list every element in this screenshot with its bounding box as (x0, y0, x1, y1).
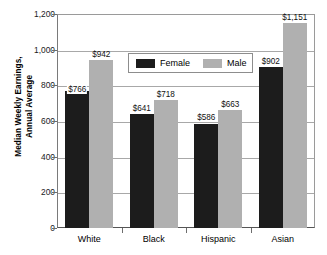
x-axis-tick-mark (186, 228, 187, 233)
legend-item-male: Male (203, 58, 247, 68)
bar-hispanic-female (194, 124, 218, 229)
y-axis-title-line-1: Median Weekly Earnings, (14, 17, 25, 197)
legend-label-male: Male (227, 58, 247, 68)
y-axis-tick-label: 600 (15, 116, 55, 126)
y-axis-tick-mark (52, 228, 57, 229)
y-axis-tick-label: 400 (15, 152, 55, 162)
legend-label-female: Female (160, 58, 190, 68)
legend-swatch-male-icon (203, 59, 222, 68)
y-axis-title-line-2: Annual Average (24, 17, 35, 197)
bar-value-label: $1,151 (282, 13, 307, 22)
y-axis-tick-label: 0 (15, 223, 55, 233)
bar-asian-female (259, 67, 283, 228)
legend: Female Male (128, 53, 253, 73)
x-axis-category-label: Hispanic (201, 234, 236, 244)
x-axis-category-label: White (78, 234, 101, 244)
x-axis-category-label: Asian (271, 234, 294, 244)
x-axis-tick-mark (122, 228, 123, 233)
y-axis-title: Median Weekly Earnings, Annual Average (14, 17, 35, 197)
bar-value-label: $718 (157, 90, 175, 99)
x-axis-tick-mark (251, 228, 252, 233)
bar-hispanic-male (218, 110, 242, 228)
bar-black-male (154, 100, 178, 228)
bar-black-female (130, 114, 154, 228)
y-axis-tick-label: 1,200 (15, 9, 55, 19)
y-axis-tick-label: 800 (15, 80, 55, 90)
y-axis-tick-label: 200 (15, 187, 55, 197)
bar-value-label: $766 (67, 85, 87, 94)
bar-value-label: $641 (133, 104, 151, 113)
bars-layer: $766$942$641$718$586$663$902$1,151 (57, 14, 315, 228)
bar-white-male (89, 60, 113, 228)
bar-value-label: $586 (197, 113, 215, 122)
bar-chart: Median Weekly Earnings, Annual Average 0… (0, 0, 327, 255)
bar-asian-male (283, 23, 307, 228)
bar-value-label: $663 (221, 100, 239, 109)
x-axis-category-label: Black (143, 234, 165, 244)
legend-item-female: Female (136, 58, 190, 68)
bar-white-female (65, 91, 89, 228)
legend-swatch-female-icon (136, 59, 155, 68)
bar-value-label: $902 (262, 57, 280, 66)
y-axis-tick-label: 1,000 (15, 45, 55, 55)
bar-value-label: $942 (92, 50, 110, 59)
